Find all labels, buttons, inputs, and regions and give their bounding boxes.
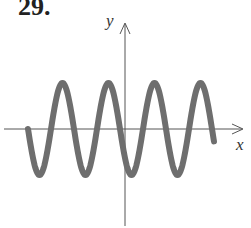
x-axis-label: x <box>235 135 244 154</box>
y-axis-label: y <box>104 11 114 30</box>
sine-graph: x y <box>0 0 251 228</box>
